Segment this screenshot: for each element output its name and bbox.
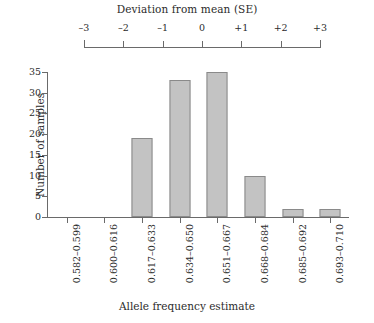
- x-axis-tick: [67, 218, 68, 223]
- y-axis-tick-label: 30: [19, 88, 41, 98]
- secondary-axis-tick-label: –1: [150, 22, 176, 33]
- secondary-axis-tick-label: 0: [189, 22, 215, 33]
- y-axis-tick: [42, 196, 47, 197]
- secondary-axis-tick: [320, 40, 321, 48]
- secondary-axis-tick: [202, 41, 203, 48]
- y-axis-tick-label: 0: [19, 212, 41, 222]
- x-axis-tick: [217, 218, 218, 223]
- x-axis-tick-label-text: 0.651–0.667: [221, 224, 232, 283]
- secondary-axis-tick: [123, 41, 124, 48]
- secondary-axis: –3–2–10+1+2+3: [84, 36, 320, 52]
- x-axis-tick-labels: 0.582–0.5990.600–0.6160.617–0.6330.634–0…: [47, 224, 349, 290]
- y-axis-tick-label: 20: [19, 129, 41, 139]
- x-axis-tick: [293, 218, 294, 223]
- bar: [207, 72, 228, 217]
- x-axis-tick-label: 0.685–0.692: [297, 224, 308, 283]
- secondary-axis-tick-label: +3: [307, 22, 333, 33]
- bar-slot: [123, 72, 161, 217]
- bar-slot: [161, 72, 199, 217]
- histogram-figure: Deviation from mean (SE) –3–2–10+1+2+3 N…: [0, 0, 374, 323]
- bar-slot: [311, 72, 349, 217]
- secondary-axis-tick: [84, 40, 85, 48]
- bar: [282, 209, 303, 217]
- plot-area: Number of samples 05101520253035: [47, 72, 349, 218]
- x-axis-tick-label-text: 0.668–0.684: [259, 224, 270, 283]
- bar-slot: [236, 72, 274, 217]
- bar: [132, 138, 153, 217]
- secondary-axis-tick: [241, 41, 242, 48]
- bar-slot: [274, 72, 312, 217]
- secondary-axis-title: Deviation from mean (SE): [0, 3, 374, 15]
- x-axis-tick-label-text: 0.693–0.710: [334, 224, 345, 283]
- bar-slot: [86, 72, 124, 217]
- y-axis-tick-label: 25: [19, 108, 41, 118]
- x-axis-title: Allele frequency estimate: [0, 300, 374, 312]
- bar: [169, 80, 190, 217]
- bar: [244, 176, 265, 217]
- x-axis-tick-label-text: 0.617–0.633: [146, 224, 157, 283]
- x-axis-tick-label: 0.634–0.650: [184, 224, 195, 283]
- secondary-axis-tick-label: –2: [110, 22, 136, 33]
- x-axis-tick: [104, 218, 105, 223]
- bar-slot: [199, 72, 237, 217]
- secondary-axis-tick-label: –3: [71, 22, 97, 33]
- y-axis-tick: [42, 72, 47, 73]
- x-axis-tick-label-text: 0.582–0.599: [71, 224, 82, 283]
- y-axis-tick: [42, 113, 47, 114]
- x-axis-tick: [180, 218, 181, 223]
- x-axis-tick-label-text: 0.634–0.650: [184, 224, 195, 283]
- x-axis-tick: [255, 218, 256, 223]
- secondary-axis-tick-label: +1: [228, 22, 254, 33]
- y-axis-tick: [42, 134, 47, 135]
- y-axis-tick-label: 5: [19, 191, 41, 201]
- secondary-axis-tick-label: +2: [268, 22, 294, 33]
- bar-slot: [48, 72, 86, 217]
- secondary-axis-tick: [281, 41, 282, 48]
- y-axis-tick: [42, 176, 47, 177]
- x-axis-tick: [330, 218, 331, 223]
- x-axis-tick-label: 0.582–0.599: [71, 224, 82, 283]
- x-axis-tick-label: 0.651–0.667: [221, 224, 232, 283]
- secondary-axis-tick: [163, 41, 164, 48]
- x-axis-tick-label: 0.600–0.616: [108, 224, 119, 283]
- y-axis-tick-label: 15: [19, 150, 41, 160]
- x-axis-tick-label: 0.617–0.633: [146, 224, 157, 283]
- x-axis-tick: [142, 218, 143, 223]
- bar-group: [48, 72, 349, 217]
- x-axis-tick-label-text: 0.685–0.692: [297, 224, 308, 283]
- x-axis-tick-label: 0.693–0.710: [334, 224, 345, 283]
- x-axis-tick-label: 0.668–0.684: [259, 224, 270, 283]
- y-axis-tick: [42, 155, 47, 156]
- y-axis-tick-label: 35: [19, 67, 41, 77]
- x-axis-tick-label-text: 0.600–0.616: [108, 224, 119, 283]
- bar: [320, 209, 341, 217]
- y-axis-tick-label: 10: [19, 171, 41, 181]
- y-axis-tick: [42, 93, 47, 94]
